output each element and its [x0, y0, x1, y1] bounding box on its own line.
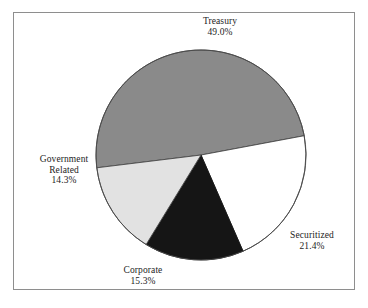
pie-label-government-related-value: 14.3%	[16, 175, 112, 186]
pie-label-corporate-value: 15.3%	[93, 276, 193, 287]
pie-label-government-related: Government Related 14.3%	[16, 154, 112, 186]
pie-label-securitized-name: Securitized	[262, 230, 362, 241]
pie-label-corporate: Corporate 15.3%	[93, 265, 193, 286]
pie-label-securitized: Securitized 21.4%	[262, 230, 362, 251]
pie-label-corporate-name: Corporate	[93, 265, 193, 276]
pie-label-treasury: Treasury 49.0%	[168, 16, 272, 37]
pie-label-treasury-value: 49.0%	[168, 27, 272, 38]
pie-label-treasury-name: Treasury	[168, 16, 272, 27]
pie-chart-figure: Treasury 49.0% Securitized 21.4% Corpora…	[0, 0, 368, 308]
pie-label-securitized-value: 21.4%	[262, 241, 362, 252]
pie-label-government-related-name-line1: Government	[16, 154, 112, 165]
pie-label-government-related-name-line2: Related	[16, 165, 112, 176]
